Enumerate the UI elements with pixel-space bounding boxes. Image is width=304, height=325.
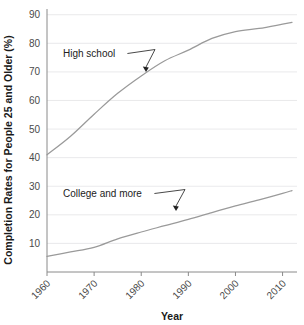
annotation-label: College and more — [63, 188, 142, 199]
chart-background — [0, 0, 304, 325]
annotation-label: High school — [63, 48, 115, 59]
y-axis-tick-label: 30 — [29, 181, 41, 192]
y-axis-tick-label: 50 — [29, 124, 41, 135]
y-axis-tick-label: 70 — [29, 66, 41, 77]
y-axis-tick-label: 60 — [29, 95, 41, 106]
y-axis-tick-label: 80 — [29, 38, 41, 49]
x-axis-title: Year — [161, 310, 183, 322]
y-axis-title: Completion Rates for People 25 and Older… — [2, 35, 14, 264]
line-chart: 102030405060708090 196019701980199020002… — [0, 0, 304, 325]
y-axis-tick-label: 40 — [29, 152, 41, 163]
y-axis-tick-labels: 102030405060708090 — [29, 9, 41, 249]
chart-canvas: 102030405060708090 196019701980199020002… — [0, 0, 304, 325]
y-axis-tick-label: 10 — [29, 238, 41, 249]
y-axis-tick-label: 20 — [29, 209, 41, 220]
y-axis-tick-label: 90 — [29, 9, 41, 20]
